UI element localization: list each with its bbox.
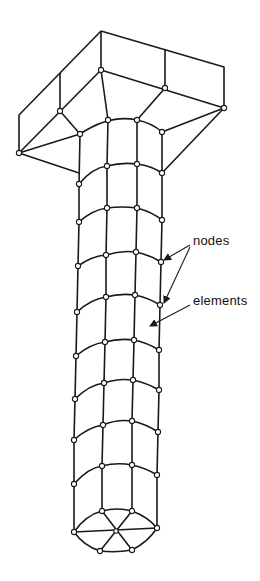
nodes-label: nodes	[193, 233, 229, 248]
mesh-nodes	[16, 67, 226, 553]
nodes-arrow-1	[164, 245, 190, 260]
elements-label: elements	[193, 293, 247, 308]
shaft-rings	[74, 163, 162, 511]
annotation-arrows	[150, 245, 190, 326]
elements-arrow	[150, 305, 190, 326]
bolt-head	[19, 31, 224, 173]
bolt-mesh-drawing	[0, 0, 260, 581]
nodes-arrow-2	[164, 247, 190, 303]
